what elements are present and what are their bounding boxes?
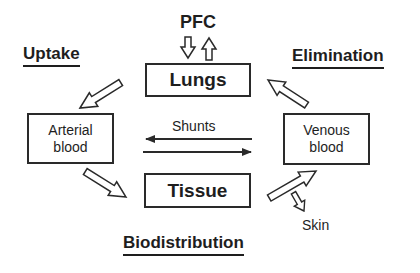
arterial-blood-node: Arterial blood xyxy=(27,113,114,164)
skin-label: Skin xyxy=(302,217,329,233)
arterial-blood-label-line2: blood xyxy=(53,139,87,156)
pfc-out-arrow-icon xyxy=(202,38,216,60)
lungs-node: Lungs xyxy=(145,63,251,97)
arterial-blood-label-line1: Arterial xyxy=(48,122,92,139)
biodistribution-heading: Biodistribution xyxy=(123,233,244,256)
skin-arrow-icon xyxy=(288,190,309,214)
elimination-heading: Elimination xyxy=(292,46,384,69)
shunts-label: Shunts xyxy=(172,118,216,134)
biodistribution-in-arrow-icon xyxy=(81,165,130,204)
biodistribution-out-arrow-icon xyxy=(265,164,320,205)
venous-blood-label-line2: blood xyxy=(309,139,343,156)
tissue-node: Tissue xyxy=(144,173,251,208)
uptake-arrow-icon xyxy=(76,76,125,115)
lungs-label: Lungs xyxy=(170,69,227,91)
tissue-label: Tissue xyxy=(168,180,228,202)
elimination-arrow-icon xyxy=(264,73,311,111)
pfc-in-arrow-icon xyxy=(181,37,195,58)
uptake-heading: Uptake xyxy=(23,44,80,67)
pfc-label: PFC xyxy=(180,12,216,32)
venous-blood-label-line1: Venous xyxy=(303,122,350,139)
venous-blood-node: Venous blood xyxy=(283,113,370,165)
